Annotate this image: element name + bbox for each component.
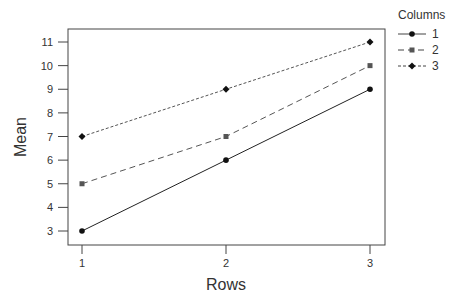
series-group <box>79 39 374 234</box>
series-line <box>82 66 370 184</box>
x-axis-label: Rows <box>206 276 246 293</box>
legend-item: 2 <box>398 43 439 57</box>
data-point <box>224 134 229 139</box>
y-tick-label: 10 <box>41 60 53 72</box>
data-point <box>367 86 373 92</box>
y-tick-label: 11 <box>42 36 53 48</box>
legend-item: 1 <box>398 27 439 41</box>
series-2 <box>80 63 373 186</box>
legend: Columns 123 <box>398 8 445 73</box>
data-point <box>223 157 229 163</box>
legend-marker <box>409 31 415 37</box>
data-point <box>80 181 85 186</box>
y-tick-label: 7 <box>47 131 53 143</box>
legend-item: 3 <box>398 59 439 73</box>
data-point <box>368 63 373 68</box>
data-point <box>79 228 85 234</box>
x-tick-label: 1 <box>79 257 85 269</box>
legend-label: 1 <box>432 27 439 41</box>
y-axis: 34567891011 <box>41 36 68 237</box>
y-tick-label: 5 <box>47 178 53 190</box>
data-point <box>223 86 230 93</box>
x-axis: 123 <box>79 245 373 269</box>
legend-label: 3 <box>432 59 439 73</box>
interaction-plot: 34567891011 123 Mean Rows Columns 123 <box>0 0 458 296</box>
series-3 <box>79 39 374 141</box>
data-point <box>79 133 86 140</box>
x-tick-label: 3 <box>367 257 373 269</box>
x-tick-label: 2 <box>223 257 229 269</box>
legend-marker <box>409 63 416 70</box>
y-tick-label: 9 <box>47 83 53 95</box>
y-axis-label: Mean <box>12 117 29 157</box>
y-tick-label: 3 <box>47 225 53 237</box>
y-tick-label: 4 <box>47 201 53 213</box>
y-tick-label: 8 <box>47 107 53 119</box>
series-1 <box>79 86 373 233</box>
data-point <box>367 39 374 46</box>
legend-label: 2 <box>432 43 439 57</box>
legend-marker <box>410 48 415 53</box>
y-tick-label: 6 <box>47 154 53 166</box>
legend-title: Columns <box>398 8 445 22</box>
